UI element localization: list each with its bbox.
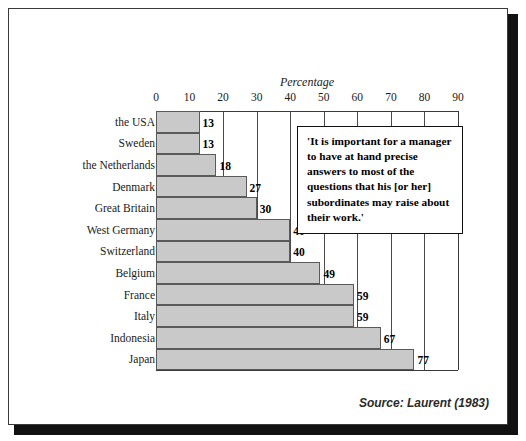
bar-value-label: 13	[203, 138, 215, 150]
bar	[156, 197, 257, 219]
bar	[156, 219, 290, 241]
bar-value-label: 77	[417, 354, 429, 366]
x-axis-title: Percentage	[156, 75, 458, 90]
x-tick-label: 40	[284, 91, 296, 103]
bar	[156, 327, 381, 349]
x-tick-label: 10	[184, 91, 196, 103]
category-label: West Germany	[87, 224, 155, 236]
x-tick-label: 0	[153, 91, 159, 103]
bar	[156, 241, 290, 263]
x-tick-label: 60	[352, 91, 364, 103]
bar-value-label: 27	[250, 182, 262, 194]
category-label: Sweden	[119, 137, 155, 149]
bar-value-label: 18	[219, 160, 231, 172]
bar	[156, 111, 200, 133]
bar	[156, 133, 200, 155]
figure-card: Percentage 0102030405060708090 the USASw…	[8, 8, 508, 425]
bar	[156, 349, 414, 371]
quote-callout-box: 'It is important for a manager to have a…	[297, 126, 463, 234]
figure-page: Percentage 0102030405060708090 the USASw…	[0, 0, 526, 441]
category-label: Japan	[129, 353, 155, 365]
category-label: France	[124, 289, 155, 301]
quote-text: 'It is important for a manager to have a…	[307, 134, 454, 225]
bar-value-label: 30	[260, 203, 272, 215]
bar-value-label: 59	[357, 290, 369, 302]
bar-value-label: 59	[357, 311, 369, 323]
source-note: Source: Laurent (1983)	[359, 396, 489, 410]
category-label: Italy	[134, 310, 155, 322]
plot-frame-bottom	[156, 370, 458, 371]
category-label: Denmark	[112, 181, 155, 193]
x-tick-label: 90	[452, 91, 464, 103]
category-label: Belgium	[115, 267, 155, 279]
bar-value-label: 40	[293, 246, 305, 258]
bar-value-label: 13	[203, 117, 215, 129]
bar	[156, 305, 354, 327]
x-tick-label: 30	[251, 91, 263, 103]
category-label: Switzerland	[100, 245, 155, 257]
x-tick-label: 20	[217, 91, 229, 103]
bar-value-label: 67	[384, 333, 396, 345]
category-label: the Netherlands	[83, 159, 156, 171]
bar	[156, 176, 247, 198]
category-label: the USA	[115, 116, 155, 128]
bar	[156, 154, 216, 176]
category-label: Great Britain	[95, 202, 155, 214]
plot-frame-top	[156, 111, 458, 112]
x-tick-label: 80	[419, 91, 431, 103]
category-label: Indonesia	[110, 332, 155, 344]
x-tick-label: 70	[385, 91, 397, 103]
bar-value-label: 49	[323, 268, 335, 280]
bar	[156, 262, 320, 284]
bar	[156, 284, 354, 306]
x-tick-label: 50	[318, 91, 330, 103]
